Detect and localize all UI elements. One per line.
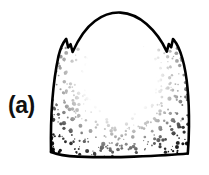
figure-panel: (a) xyxy=(0,0,209,175)
sclerite-drawing xyxy=(0,0,209,175)
panel-label: (a) xyxy=(8,92,35,118)
